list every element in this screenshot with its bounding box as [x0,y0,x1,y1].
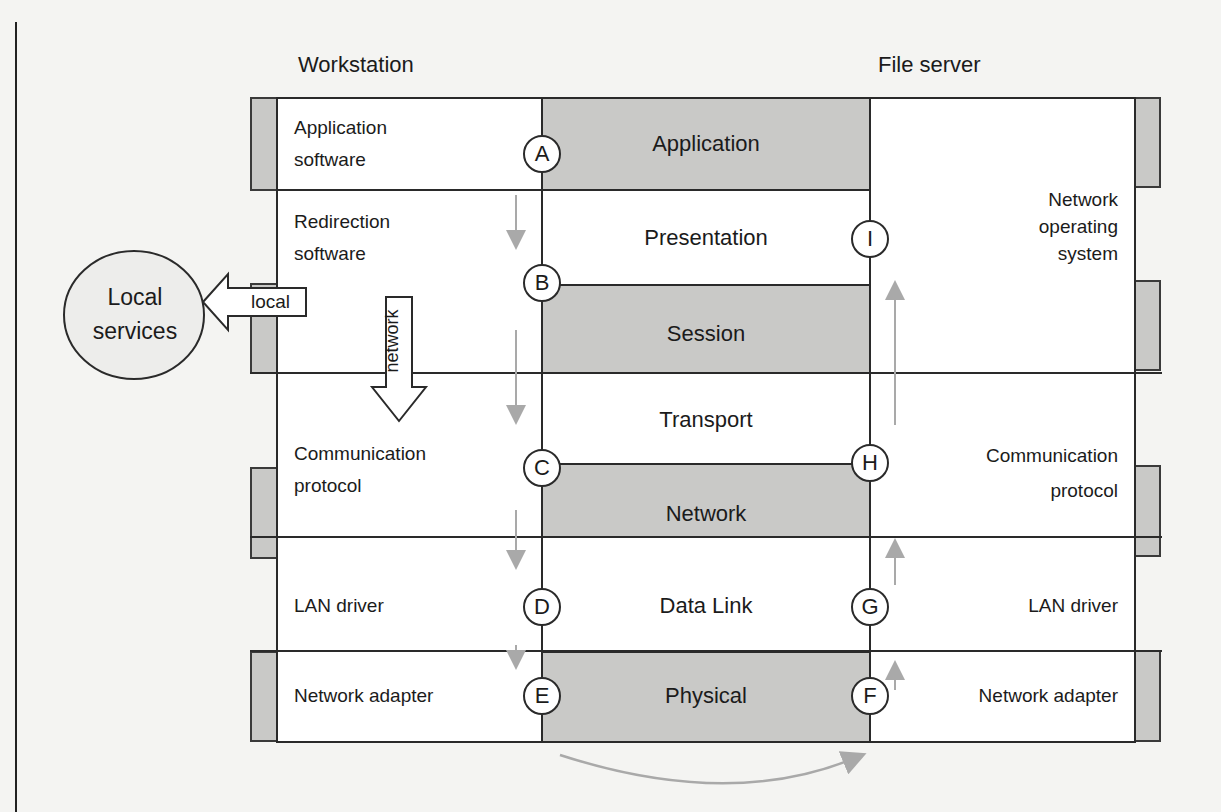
network-arrow-label: network [376,301,408,381]
node-i: I [851,220,889,258]
node-a: A [523,135,561,173]
node-f: F [851,677,889,715]
node-c: C [523,449,561,487]
node-b: B [523,264,561,302]
node-e: E [523,677,561,715]
node-g: G [851,588,889,626]
local-services-label: Local services [60,280,210,348]
physical-transfer-arrow [560,755,855,783]
flow-arrows-layer [0,0,1221,812]
node-d: D [523,588,561,626]
node-h: H [851,444,889,482]
local-arrow-label: local [251,286,290,318]
